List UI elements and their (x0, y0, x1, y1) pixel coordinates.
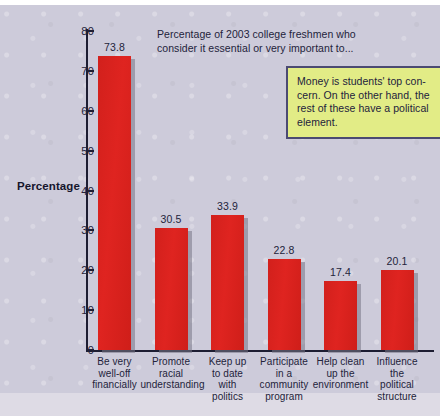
category-label-line: political (367, 379, 428, 391)
callout-line-1: Money is students' top con- (297, 75, 432, 89)
y-tick-label-wrap: 70 (52, 66, 94, 77)
category-label-line: well-off (84, 368, 145, 380)
y-tick-label: 50 (68, 146, 94, 157)
category-label-line: Help clean (310, 356, 371, 368)
bar-value-label: 22.8 (258, 244, 311, 256)
y-tick-label-wrap: 80 (52, 26, 94, 37)
chart-title-line-2: consider it essential or very important … (157, 42, 372, 56)
x-category-label: Help cleanup theenvironment (310, 356, 371, 391)
callout-line-2: cern. On the other hand, the (297, 89, 432, 103)
category-label-line: Keep up (197, 356, 258, 368)
bar (211, 215, 244, 350)
y-tick-label-wrap: 40 (52, 186, 94, 197)
bar (98, 56, 131, 350)
y-tick-label: 10 (68, 305, 94, 316)
category-label-line: to date (197, 368, 258, 380)
bar (155, 228, 188, 350)
category-label-line: financially (84, 379, 145, 391)
bar-value-label: 30.5 (145, 213, 198, 225)
y-tick-label: 80 (68, 26, 94, 37)
y-tick-label-wrap: 20 (52, 265, 94, 276)
callout-line-3: rest of these have a political (297, 102, 432, 116)
y-tick-label: 40 (68, 186, 94, 197)
chart-title: Percentage of 2003 college freshmen who … (157, 28, 372, 55)
y-tick-label-wrap: 30 (52, 225, 94, 236)
y-tick-label-wrap: 0 (52, 345, 94, 356)
x-category-label: Keep upto datewithpolitics (197, 356, 258, 402)
category-label-line: with (197, 379, 258, 391)
category-label-line: structure (367, 391, 428, 403)
category-label-line: community (254, 379, 315, 391)
y-tick-label: 70 (68, 66, 94, 77)
category-label-line: understanding (141, 379, 202, 391)
y-tick-label: 0 (68, 345, 94, 356)
category-label-line: Be very (84, 356, 145, 368)
category-label-line: program (254, 391, 315, 403)
category-label-line: Participate (254, 356, 315, 368)
category-label-line: environment (310, 379, 371, 391)
y-tick-label: 30 (68, 225, 94, 236)
annotation-callout: Money is students' top con- cern. On the… (286, 66, 440, 139)
category-label-line: politics (197, 391, 258, 403)
callout-line-4: element. (297, 116, 432, 130)
bar (268, 259, 301, 350)
category-label-line: in a (254, 368, 315, 380)
x-category-label: Influencethepoliticalstructure (367, 356, 428, 402)
bar (324, 281, 357, 350)
y-tick-label-wrap: 10 (52, 305, 94, 316)
category-label-line: Promote (141, 356, 202, 368)
bar-value-label: 33.9 (201, 200, 254, 212)
y-tick-label-wrap: 60 (52, 106, 94, 117)
bar-value-label: 20.1 (371, 255, 424, 267)
chart-title-line-1: Percentage of 2003 college freshmen who (157, 28, 372, 42)
x-category-label: Participatein acommunityprogram (254, 356, 315, 402)
x-category-label: Promoteracialunderstanding (141, 356, 202, 391)
y-tick-label: 20 (68, 265, 94, 276)
category-label-line: the (367, 368, 428, 380)
category-label-line: Influence (367, 356, 428, 368)
category-label-line: up the (310, 368, 371, 380)
bar-chart-plot: Percentage 80706050403020100 73.8Be very… (0, 0, 440, 416)
x-category-label: Be verywell-offfinancially (84, 356, 145, 391)
y-tick-label-wrap: 50 (52, 146, 94, 157)
chart-page: Percentage 80706050403020100 73.8Be very… (0, 0, 440, 416)
y-tick-label: 60 (68, 106, 94, 117)
bar-value-label: 73.8 (88, 41, 141, 53)
x-axis-line (86, 350, 434, 352)
category-label-line: racial (141, 368, 202, 380)
bar (381, 270, 414, 350)
bar-value-label: 17.4 (314, 266, 367, 278)
